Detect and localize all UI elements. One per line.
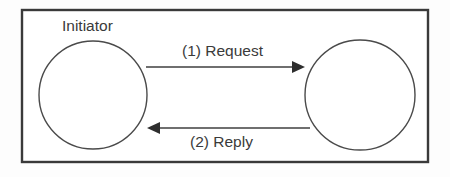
diagram-canvas: Initiator (1) Request (2) Reply: [0, 0, 450, 177]
edge-reply-label: (2) Reply: [190, 133, 253, 150]
node-initiator-label: Initiator: [62, 17, 113, 34]
node-initiator[interactable]: [39, 41, 147, 149]
request-reply-diagram: Initiator (1) Request (2) Reply: [0, 0, 450, 177]
edge-request-label: (1) Request: [182, 42, 264, 59]
node-responder[interactable]: [305, 40, 415, 150]
